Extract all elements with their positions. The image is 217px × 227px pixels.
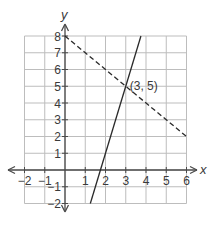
x-tick-label: 6 [183, 174, 190, 188]
y-tick-label: −2 [47, 197, 61, 211]
y-tick-label: −1 [47, 180, 61, 194]
x-tick-label: 3 [122, 174, 129, 188]
y-tick-label: 5 [54, 80, 61, 94]
x-tick-label: 1 [82, 174, 89, 188]
x-tick-label: 5 [163, 174, 170, 188]
x-tick-label: 2 [102, 174, 109, 188]
x-axis-label: x [199, 162, 207, 177]
x-tick-label: −2 [18, 174, 32, 188]
intersection-label: (3, 5) [130, 79, 158, 93]
y-tick-label: 3 [54, 113, 61, 127]
y-tick-label: 7 [54, 46, 61, 60]
y-tick-label: 8 [54, 30, 61, 44]
y-tick-label: 2 [54, 130, 61, 144]
y-tick-label: 4 [54, 97, 61, 111]
y-axis-label: y [60, 7, 69, 22]
x-tick-label: 4 [143, 174, 150, 188]
coordinate-plane: −2−112345687654321−1−2 x y (3, 5) [0, 0, 217, 227]
y-tick-label: 6 [54, 63, 61, 77]
y-tick-label: 1 [54, 147, 61, 161]
